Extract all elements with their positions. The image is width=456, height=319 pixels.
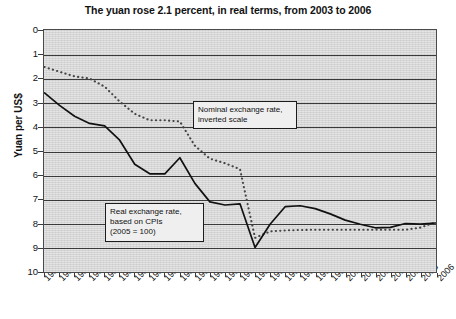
- y-tick-label: 10: [16, 266, 38, 277]
- x-tick-mark: [240, 273, 241, 277]
- annotation-real-exchange-rate: Real exchange rate, based on CPIs (2005 …: [105, 203, 204, 242]
- annotation-real-line-3: (2005 = 100): [110, 227, 199, 237]
- annotation-real-line-1: Real exchange rate,: [110, 207, 199, 217]
- y-tick-label: 3: [16, 97, 38, 108]
- x-tick-mark: [149, 273, 150, 277]
- chart-title: The yuan rose 2.1 percent, in real terms…: [0, 4, 456, 16]
- y-tick-label: 2: [16, 72, 38, 83]
- x-tick-mark: [119, 273, 120, 277]
- plot-area: [43, 29, 437, 273]
- x-tick-mark: [331, 273, 332, 277]
- y-tick-label: 5: [16, 145, 38, 156]
- annotation-real-line-2: based on CPIs: [110, 217, 199, 227]
- x-tick-mark: [316, 273, 317, 277]
- annotation-nominal-exchange-rate: Nominal exchange rate, inverted scale: [193, 101, 297, 129]
- x-tick-mark: [44, 273, 45, 277]
- chart-figure: The yuan rose 2.1 percent, in real terms…: [0, 0, 456, 319]
- y-tick-label: 8: [16, 218, 38, 229]
- x-tick-mark: [406, 273, 407, 277]
- series-lines: [44, 30, 436, 272]
- x-tick-mark: [225, 273, 226, 277]
- x-tick-mark: [391, 273, 392, 277]
- series-line-nominal: [44, 67, 435, 238]
- x-tick-mark: [134, 273, 135, 277]
- x-tick-mark: [300, 273, 301, 277]
- x-tick-mark: [376, 273, 377, 277]
- x-tick-mark: [255, 273, 256, 277]
- x-tick-mark: [164, 273, 165, 277]
- x-tick-label: 2006: [435, 262, 456, 283]
- annotation-nominal-line-2: inverted scale: [198, 115, 292, 125]
- x-tick-mark: [421, 273, 422, 277]
- x-tick-mark: [180, 273, 181, 277]
- x-tick-mark: [104, 273, 105, 277]
- x-tick-mark: [89, 273, 90, 277]
- x-tick-mark: [285, 273, 286, 277]
- y-tick-label: 7: [16, 193, 38, 204]
- x-tick-mark: [59, 273, 60, 277]
- y-tick-label: 9: [16, 242, 38, 253]
- x-tick-mark: [346, 273, 347, 277]
- x-tick-mark: [210, 273, 211, 277]
- x-tick-mark: [270, 273, 271, 277]
- y-tick-label: 0: [16, 24, 38, 35]
- y-tick-label: 1: [16, 48, 38, 59]
- annotation-nominal-line-1: Nominal exchange rate,: [198, 105, 292, 115]
- x-tick-mark: [195, 273, 196, 277]
- y-tick-label: 4: [16, 121, 38, 132]
- y-tick-label: 6: [16, 169, 38, 180]
- x-tick-mark: [361, 273, 362, 277]
- x-tick-mark: [437, 273, 438, 277]
- x-tick-mark: [74, 273, 75, 277]
